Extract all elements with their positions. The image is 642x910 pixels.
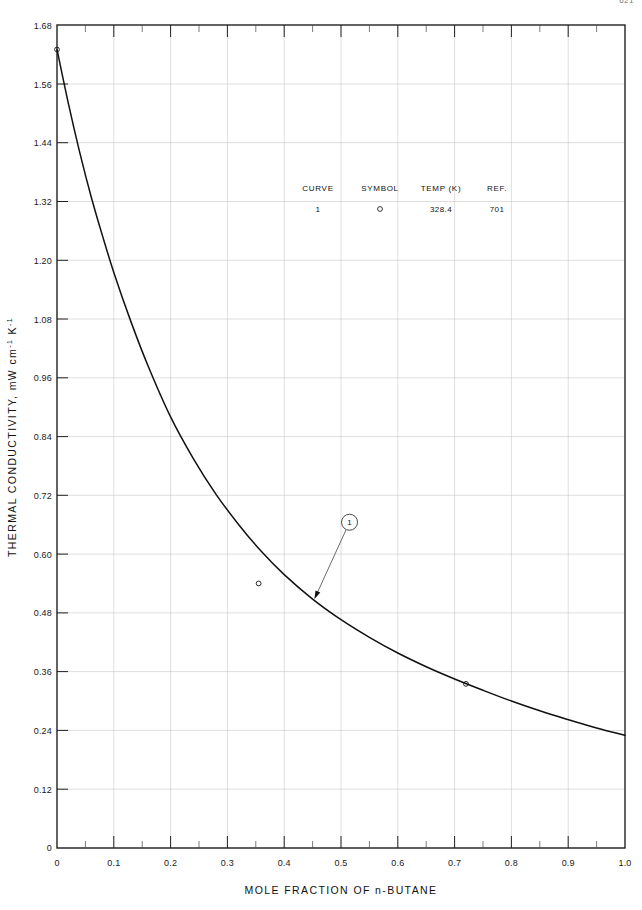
- y-tick-label: 0.72: [34, 491, 52, 501]
- y-axis-title-main: THERMAL CONDUCTIVITY, mW cm: [6, 348, 18, 557]
- legend-header-curve: CURVE: [302, 184, 333, 193]
- y-tick-label: 1.44: [34, 138, 52, 148]
- y-tick-label: 1.56: [34, 80, 52, 90]
- y-tick-label: 0.36: [34, 667, 52, 677]
- x-tick-labels: 0 0.1 0.2 0.3 0.4 0.5 0.6 0.7 0.8 0.9 1.…: [54, 858, 631, 868]
- y-axis-title-mid: K: [6, 326, 18, 339]
- y-tick-label: 1.68: [34, 21, 52, 31]
- x-tick-label: 0.5: [334, 858, 347, 868]
- legend-value-temp: 328.4: [430, 205, 452, 214]
- thermal-conductivity-chart: 1.68 1.56 1.44 1.32 1.20 1.08 0.96 0.84 …: [0, 0, 642, 910]
- legend-header-symbol: SYMBOL: [361, 184, 399, 193]
- legend-header-ref: REF.: [487, 184, 507, 193]
- series-data-points-1: [55, 47, 469, 686]
- legend-symbol-circle-icon: [378, 207, 383, 212]
- y-tick-label: 1.20: [34, 256, 52, 266]
- legend: CURVE SYMBOL TEMP (K) REF. 1 328.4 701: [302, 184, 507, 214]
- y-tick-label: 0.96: [34, 373, 52, 383]
- legend-value-ref: 701: [490, 205, 505, 214]
- y-axis-title-exp1: -1: [6, 339, 13, 348]
- x-tick-label: 0.1: [107, 858, 120, 868]
- y-tick-labels: 1.68 1.56 1.44 1.32 1.20 1.08 0.96 0.84 …: [34, 21, 52, 854]
- x-tick-label: 0.7: [448, 858, 461, 868]
- y-tick-label: 1.32: [34, 197, 52, 207]
- x-tick-label: 0.4: [278, 858, 291, 868]
- y-tick-label: 0: [47, 843, 52, 853]
- x-tick-label: 1.0: [618, 858, 631, 868]
- x-tick-label: 0.9: [562, 858, 575, 868]
- legend-value-curve: 1: [316, 205, 321, 214]
- curve-annotation-1: 1: [314, 514, 357, 599]
- y-tick-label: 0.60: [34, 550, 52, 560]
- x-tick-label: 0.8: [505, 858, 518, 868]
- legend-header-temp: TEMP (K): [421, 184, 462, 193]
- y-tick-label: 0.84: [34, 432, 52, 442]
- x-tick-label: 0.2: [164, 858, 177, 868]
- y-tick-label: 0.12: [34, 785, 52, 795]
- y-axis-title: THERMAL CONDUCTIVITY, mW cm-1 K-1: [6, 317, 18, 557]
- x-tick-label: 0: [54, 858, 59, 868]
- y-axis-major-ticks: [57, 84, 68, 789]
- y-tick-label: 0.24: [34, 726, 52, 736]
- y-tick-label: 0.48: [34, 608, 52, 618]
- y-tick-label: 1.08: [34, 315, 52, 325]
- data-point-marker: [256, 581, 261, 586]
- x-tick-label: 0.3: [221, 858, 234, 868]
- figure-container: 621: [0, 0, 642, 910]
- curve-tag-label: 1: [347, 518, 352, 527]
- y-axis-title-exp2: -1: [6, 317, 13, 326]
- x-axis-title: MOLE FRACTION OF n-BUTANE: [245, 884, 438, 896]
- x-tick-label: 0.6: [391, 858, 404, 868]
